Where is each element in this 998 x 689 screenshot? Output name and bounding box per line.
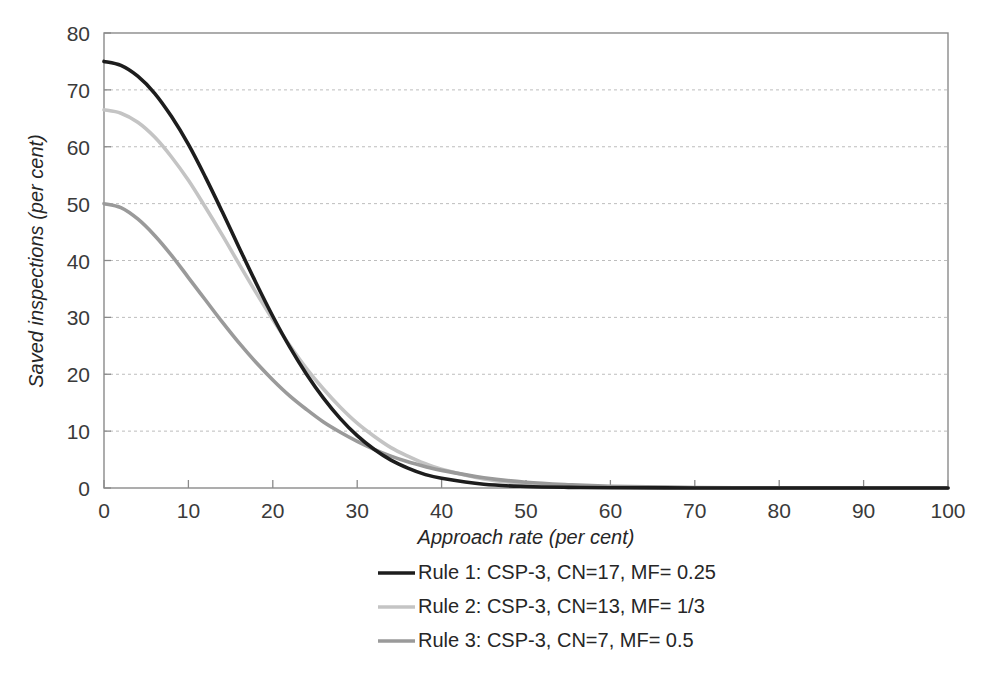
legend-item-1[interactable]: Rule 1: CSP-3, CN=17, MF= 0.25 xyxy=(378,561,716,583)
x-axis-title: Approach rate (per cent) xyxy=(417,526,635,548)
y-tick-label-10: 10 xyxy=(67,420,90,443)
y-tick-label-30: 30 xyxy=(67,306,90,329)
x-tick-label-60: 60 xyxy=(599,499,622,522)
legend-label-1: Rule 1: CSP-3, CN=17, MF= 0.25 xyxy=(418,561,716,583)
chart-legend: Rule 1: CSP-3, CN=17, MF= 0.25Rule 2: CS… xyxy=(378,561,716,651)
x-tick-label-70: 70 xyxy=(683,499,706,522)
data-series-group xyxy=(104,61,948,488)
legend-label-2: Rule 2: CSP-3, CN=13, MF= 1/3 xyxy=(418,595,705,617)
legend-item-3[interactable]: Rule 3: CSP-3, CN=7, MF= 0.5 xyxy=(378,629,694,651)
y-tick-label-40: 40 xyxy=(67,250,90,273)
x-tick-label-30: 30 xyxy=(346,499,369,522)
y-axis-ticks xyxy=(104,33,111,488)
x-tick-label-90: 90 xyxy=(852,499,875,522)
x-tick-label-0: 0 xyxy=(98,499,110,522)
x-tick-label-80: 80 xyxy=(768,499,791,522)
line-chart-canvas: 01020304050607080 0102030405060708090100… xyxy=(0,0,998,689)
y-axis-tick-labels: 01020304050607080 xyxy=(67,22,90,500)
y-tick-label-20: 20 xyxy=(67,363,90,386)
y-tick-label-80: 80 xyxy=(67,22,90,45)
y-tick-label-50: 50 xyxy=(67,193,90,216)
x-tick-label-100: 100 xyxy=(930,499,965,522)
gridlines xyxy=(104,90,948,431)
legend-item-2[interactable]: Rule 2: CSP-3, CN=13, MF= 1/3 xyxy=(378,595,705,617)
x-tick-label-40: 40 xyxy=(430,499,453,522)
x-tick-label-10: 10 xyxy=(177,499,200,522)
y-tick-label-60: 60 xyxy=(67,136,90,159)
chart-figure: 01020304050607080 0102030405060708090100… xyxy=(0,0,998,689)
series-line-rule-1 xyxy=(104,61,948,488)
y-tick-label-0: 0 xyxy=(78,477,90,500)
x-axis-tick-labels: 0102030405060708090100 xyxy=(98,499,965,522)
y-axis-title: Saved inspections (per cent) xyxy=(25,134,47,387)
x-tick-label-20: 20 xyxy=(261,499,284,522)
x-tick-label-50: 50 xyxy=(514,499,537,522)
y-tick-label-70: 70 xyxy=(67,79,90,102)
legend-label-3: Rule 3: CSP-3, CN=7, MF= 0.5 xyxy=(418,629,694,651)
